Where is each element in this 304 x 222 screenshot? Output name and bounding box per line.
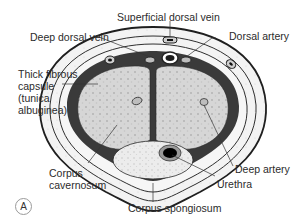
panel-label-badge: A [15, 198, 32, 215]
label-tunica-line4: albuginea) [18, 104, 67, 116]
label-corpus-spongiosum: Corpus spongiosum [128, 202, 221, 214]
label-tunica-line2: capsule [18, 80, 54, 92]
label-corpus-cavernosum-line2: cavernosum [49, 179, 106, 191]
anatomy-figure: Superficial dorsal vein Deep dorsal vein… [0, 0, 304, 222]
label-dorsal-artery: Dorsal artery [229, 30, 289, 42]
label-corpus-cavernosum-line1: Corpus [49, 167, 83, 179]
label-urethra: Urethra [217, 178, 252, 190]
dorsal-artery-right [181, 57, 191, 63]
label-deep-dorsal-vein: Deep dorsal vein [30, 31, 109, 43]
label-tunica-line1: Thick fibrous [18, 68, 78, 80]
dorsal-artery-left [145, 57, 155, 63]
label-deep-artery: Deep artery [235, 163, 290, 175]
deep-artery-right [200, 99, 208, 106]
corpus-spongiosum [113, 141, 193, 179]
label-superficial-dorsal-vein: Superficial dorsal vein [117, 11, 220, 23]
label-tunica-line3: (tunica [18, 92, 50, 104]
